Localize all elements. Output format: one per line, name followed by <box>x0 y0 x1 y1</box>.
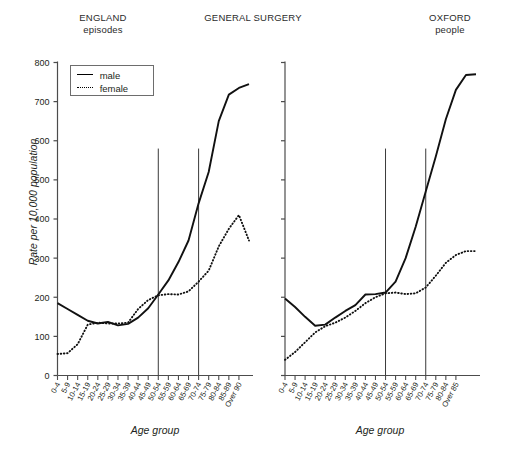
legend-label-male: male <box>100 70 121 81</box>
panel-right: 0-45-910-1415-1920-2425-2930-3435-3940-4… <box>277 62 480 409</box>
y-tick-label: 100 <box>34 332 49 342</box>
legend-label-female: female <box>100 83 129 94</box>
solid-line-icon <box>76 70 94 81</box>
chart-figure: ENGLAND episodes GENERAL SURGERY OXFORD … <box>0 0 507 453</box>
y-tick-label: 600 <box>34 136 49 146</box>
y-tick-label: 500 <box>34 175 49 185</box>
legend: male female <box>70 65 154 96</box>
y-tick-label: 700 <box>34 97 49 107</box>
y-tick-label: 400 <box>34 214 49 224</box>
series-line-female <box>285 251 476 360</box>
y-tick-label: 800 <box>34 58 49 68</box>
series-line-male <box>58 84 250 325</box>
y-tick-label: 300 <box>34 254 49 264</box>
panel-left: 01002003004005006007008000-45-910-1415-1… <box>34 58 253 409</box>
series-line-male <box>285 74 476 326</box>
series-line-female <box>58 215 250 354</box>
dotted-line-icon <box>76 83 94 94</box>
legend-item-female: female <box>76 82 128 94</box>
legend-item-male: male <box>76 69 120 81</box>
y-tick-label: 0 <box>44 371 49 381</box>
y-tick-label: 200 <box>34 293 49 303</box>
